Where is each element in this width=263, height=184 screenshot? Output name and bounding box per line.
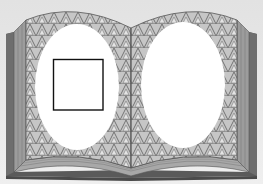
square-outline <box>54 60 104 111</box>
open-book-illustration <box>0 0 263 184</box>
right-oval-frame <box>141 22 225 148</box>
book-graphic <box>0 0 263 184</box>
